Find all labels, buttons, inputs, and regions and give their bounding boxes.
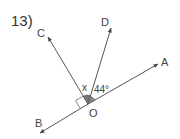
ray-ob [40,104,88,133]
right-angle-mark [76,96,84,109]
angle-label-44: 44° [94,85,109,95]
point-label-d: D [101,17,109,28]
angle-label-x: x [82,83,87,93]
point-label-b: B [35,118,42,129]
ray-oc [48,37,88,104]
problem-number: 13) [11,13,33,28]
point-label-o: O [89,108,98,119]
point-label-c: C [37,28,45,39]
point-label-a: A [161,57,168,68]
